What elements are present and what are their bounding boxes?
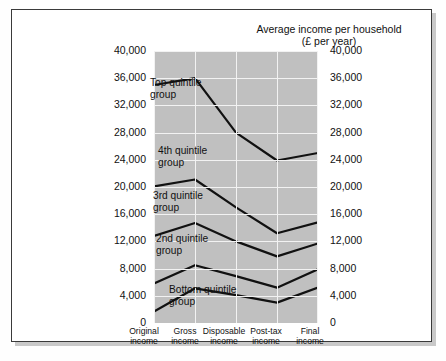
series-label: 4th quintilegroup: [158, 145, 207, 168]
y-axis-right-tick-label: 12,000: [330, 235, 362, 246]
x-axis-tick-label-line: income: [288, 336, 332, 346]
y-axis-right: 40,00036,00032,00028,00024,00020,00016,0…: [330, 10, 390, 361]
y-axis-right-tick-label: 4,000: [330, 290, 356, 301]
y-axis-left-tick-label: 32,000: [88, 99, 146, 110]
x-axis-tick-label: Originalincome: [122, 326, 166, 346]
chart-card: Average income per household (£ per year…: [11, 9, 432, 342]
y-axis-left-tick-label: 8,000: [88, 263, 146, 274]
y-axis-left-tick-label: 28,000: [88, 127, 146, 138]
series-label-line2: group: [150, 89, 202, 101]
y-axis-left: 40,00036,00032,00028,00024,00020,00016,0…: [88, 10, 146, 361]
series-label-line1: Top quintile: [150, 77, 202, 89]
series-label-line2: group: [153, 202, 203, 214]
y-axis-left-tick-label: 40,000: [88, 45, 146, 56]
series-label: 3rd quintilegroup: [153, 190, 203, 213]
y-axis-left-tick-label: 4,000: [88, 290, 146, 301]
series-label: 2nd quintilegroup: [156, 233, 208, 256]
series-label-line1: 3rd quintile: [153, 190, 203, 202]
series-label: Top quintilegroup: [150, 77, 202, 100]
x-axis-tick-label-line: Gross: [163, 326, 207, 336]
x-axis-tick-label: Grossincome: [163, 326, 207, 346]
y-axis-left-tick-label: 36,000: [88, 72, 146, 83]
x-axis-tick-label-line: Original: [122, 326, 166, 336]
x-axis-tick-label-line: income: [202, 336, 246, 346]
y-axis-left-tick-label: 20,000: [88, 181, 146, 192]
series-label-line2: group: [156, 245, 208, 257]
vertical-gridline: [317, 51, 318, 323]
chart-screenshot: Average income per household (£ per year…: [0, 0, 446, 361]
x-axis-tick-label-line: Disposable: [202, 326, 246, 336]
series-label-line2: group: [158, 157, 207, 169]
series-label-line1: 4th quintile: [158, 145, 207, 157]
y-axis-left-tick-label: 16,000: [88, 208, 146, 219]
series-label: Bottom quintilegroup: [169, 284, 236, 307]
x-axis-tick-label: Disposableincome: [202, 326, 246, 346]
x-axis-tick-label-line: income: [244, 336, 288, 346]
chart-subtitle: (£ per year): [240, 35, 418, 47]
x-axis-tick-label-line: income: [122, 336, 166, 346]
x-axis-tick-label-line: Final: [288, 326, 332, 336]
series-label-line1: Bottom quintile: [169, 284, 236, 296]
vertical-gridline: [236, 51, 237, 323]
vertical-gridline: [277, 51, 278, 323]
x-axis-tick-label-line: income: [163, 336, 207, 346]
y-axis-left-tick-label: 12,000: [88, 235, 146, 246]
y-axis-right-tick-label: 24,000: [330, 154, 362, 165]
y-axis-right-tick-label: 20,000: [330, 181, 362, 192]
series-label-line1: 2nd quintile: [156, 233, 208, 245]
y-axis-right-tick-label: 28,000: [330, 127, 362, 138]
y-axis-right-tick-label: 16,000: [330, 208, 362, 219]
x-axis-tick-label: Post-taxincome: [244, 326, 288, 346]
x-axis-tick-label-line: Post-tax: [244, 326, 288, 336]
y-axis-right-tick-label: 32,000: [330, 99, 362, 110]
series-label-line2: group: [169, 296, 236, 308]
y-axis-right-tick-label: 40,000: [330, 45, 362, 56]
x-axis-tick-label: Finalincome: [288, 326, 332, 346]
chart-title-block: Average income per household (£ per year…: [240, 23, 418, 47]
y-axis-right-tick-label: 36,000: [330, 72, 362, 83]
chart-title: Average income per household: [240, 23, 418, 35]
y-axis-right-tick-label: 8,000: [330, 263, 356, 274]
y-axis-left-tick-label: 24,000: [88, 154, 146, 165]
